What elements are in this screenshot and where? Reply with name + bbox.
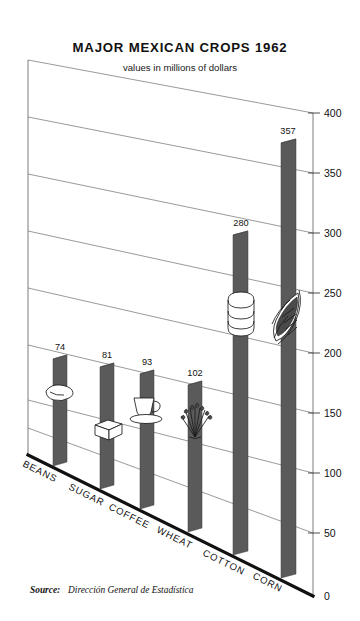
bar-corn[interactable] xyxy=(281,139,296,578)
bar-group-corn[interactable]: 357 CORN xyxy=(251,126,300,594)
gridlines xyxy=(28,60,313,533)
gridline-100 xyxy=(28,400,313,473)
major-mexican-crops-chart: 400 350 300 250 200 150 100 50 0 MAJOR M… xyxy=(0,0,360,621)
gridline-350 xyxy=(28,117,313,173)
bean-icon xyxy=(46,385,73,401)
gridline-300 xyxy=(28,174,313,233)
value-label-sugar: 81 xyxy=(102,350,112,360)
tick-label-50: 50 xyxy=(324,527,336,539)
chart-container: 400 350 300 250 200 150 100 50 0 MAJOR M… xyxy=(0,0,360,621)
value-label-wheat: 102 xyxy=(187,368,202,378)
tick-label-350: 350 xyxy=(324,167,342,179)
tick-label-400: 400 xyxy=(324,107,342,119)
bar-coffee[interactable] xyxy=(140,370,154,509)
axis-ticks xyxy=(308,113,320,533)
gridline-150 xyxy=(28,345,313,413)
bar-beans[interactable] xyxy=(53,355,67,466)
tick-label-150: 150 xyxy=(324,407,342,419)
value-label-coffee: 93 xyxy=(142,357,152,367)
source-text: Dirección General de Estadística xyxy=(67,585,194,595)
value-label-cotton: 280 xyxy=(233,218,248,228)
bar-wheat[interactable] xyxy=(188,381,202,532)
bar-cotton[interactable] xyxy=(233,231,248,555)
tick-label-0: 0 xyxy=(324,590,330,602)
cotton-bale-icon xyxy=(228,292,254,336)
source-lead: Source: xyxy=(30,585,60,595)
chart-subtitle: values in millions of dollars xyxy=(123,62,237,73)
tick-label-100: 100 xyxy=(324,467,342,479)
axis-tick-labels: 400 350 300 250 200 150 100 50 0 xyxy=(324,107,342,602)
gridline-200 xyxy=(28,288,313,353)
coffee-cup-icon xyxy=(130,398,162,424)
sugar-cube-icon xyxy=(95,420,122,440)
gridline-250 xyxy=(28,231,313,293)
source-note: Source: Dirección General de Estadística xyxy=(30,585,194,595)
tick-label-300: 300 xyxy=(324,227,342,239)
chart-title: MAJOR MEXICAN CROPS 1962 xyxy=(73,40,288,55)
value-label-beans: 74 xyxy=(55,342,65,352)
tick-label-250: 250 xyxy=(324,287,342,299)
bar-group-sugar[interactable]: 81 SUGAR xyxy=(67,350,122,508)
bar-group-cotton[interactable]: 280 COTTON xyxy=(201,218,254,577)
tick-label-200: 200 xyxy=(324,347,342,359)
gridline-50 xyxy=(28,428,313,533)
value-label-corn: 357 xyxy=(280,126,295,136)
bar-group-coffee[interactable]: 93 COFFEE xyxy=(107,357,162,530)
baseline-zero xyxy=(28,455,313,596)
chart-frame xyxy=(28,60,313,596)
